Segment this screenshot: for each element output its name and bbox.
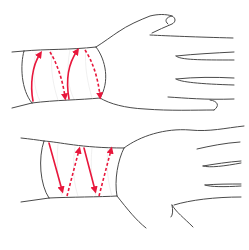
top-hand-illustration [12,15,234,111]
top-wrap-arrows [32,50,100,101]
bottom-hand-illustration [21,126,244,228]
bottom-wrap-arrows [49,143,111,196]
bandage-wrapping-diagram: Spiral wrap with upward solid arrows and… [0,0,249,250]
